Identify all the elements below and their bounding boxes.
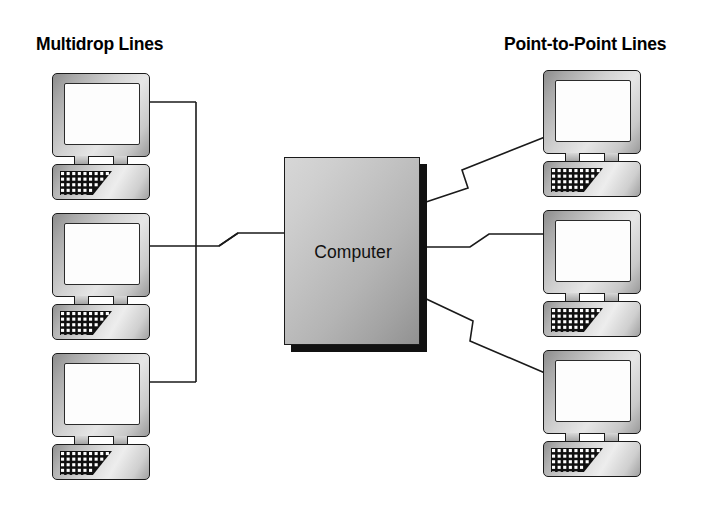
terminal-keyboard [52, 164, 150, 200]
multidrop-terminal-1[interactable] [52, 73, 150, 200]
multidrop-terminal-2[interactable] [52, 213, 150, 340]
terminal-monitor [52, 213, 150, 297]
terminal-screen [64, 223, 140, 285]
terminal-monitor [52, 73, 150, 157]
keyboard-keys-icon [60, 171, 112, 195]
p2p-link-middle [420, 234, 543, 247]
terminal-keyboard [52, 444, 150, 480]
p2p-link-bottom [420, 296, 545, 373]
keyboard-keys-icon [60, 311, 112, 335]
terminal-screen [555, 80, 631, 142]
terminal-screen [64, 363, 140, 425]
keyboard-keys-icon [551, 308, 603, 332]
terminal-screen [555, 360, 631, 422]
terminal-monitor [543, 210, 641, 294]
computer-label: Computer [285, 158, 421, 346]
multidrop-break-symbol [219, 233, 238, 246]
p2p-terminal-1[interactable] [543, 70, 641, 197]
terminal-keyboard [543, 301, 641, 337]
terminal-monitor [52, 353, 150, 437]
terminal-keyboard [52, 304, 150, 340]
keyboard-keys-icon [551, 448, 603, 472]
multidrop-terminal-3[interactable] [52, 353, 150, 480]
terminal-screen [64, 83, 140, 145]
keyboard-keys-icon [551, 168, 603, 192]
keyboard-keys-icon [60, 451, 112, 475]
p2p-terminal-3[interactable] [543, 350, 641, 477]
terminal-keyboard [543, 161, 641, 197]
terminal-monitor [543, 350, 641, 434]
terminal-monitor [543, 70, 641, 154]
p2p-link-top [420, 137, 545, 204]
computer-node[interactable]: Computer [284, 157, 420, 345]
terminal-screen [555, 220, 631, 282]
p2p-terminal-2[interactable] [543, 210, 641, 337]
multidrop-trunk-line [150, 233, 284, 246]
terminal-keyboard [543, 441, 641, 477]
diagram-canvas: Multidrop Lines Point-to-Point Lines Com… [0, 0, 714, 506]
